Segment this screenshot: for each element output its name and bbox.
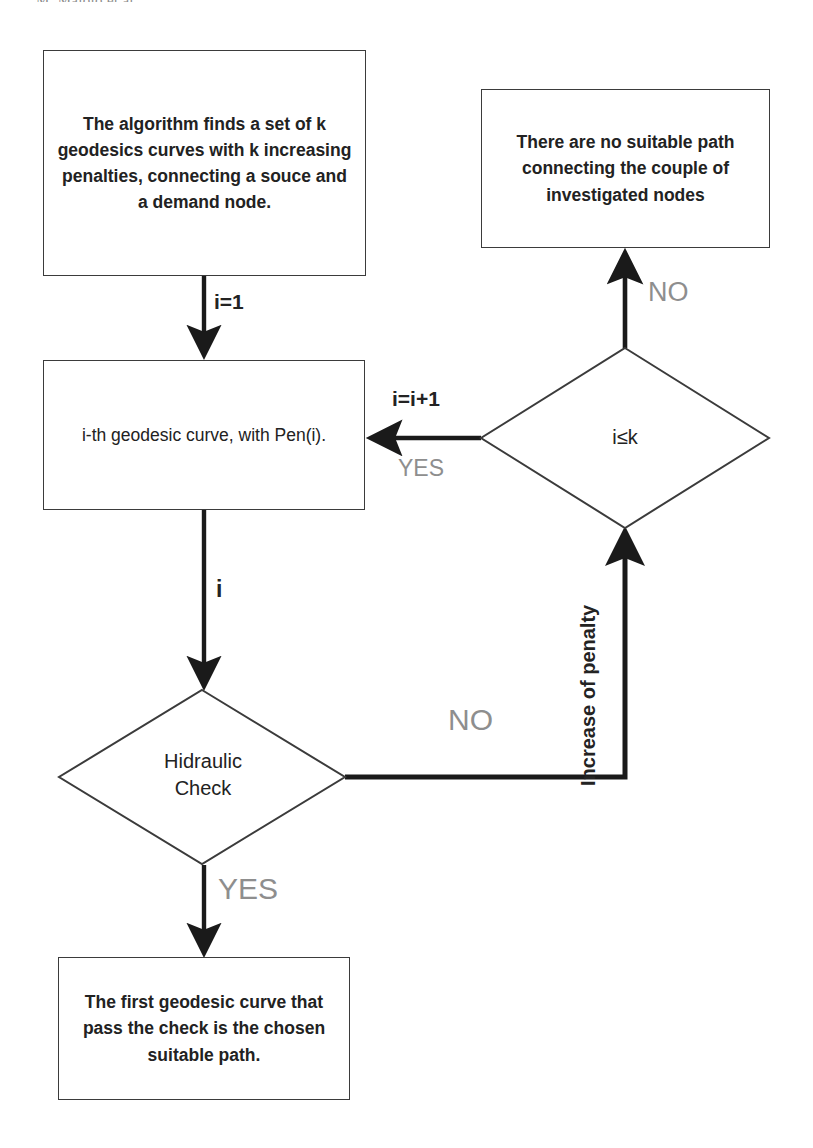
edge-label-current-index: i: [216, 576, 222, 603]
edge-label-counter-yes: YES: [398, 455, 444, 482]
ith-geodesic-text: i-th geodesic curve, with Pen(i).: [82, 422, 326, 448]
chosen-path-terminal-text: The first geodesic curve that pass the c…: [71, 989, 337, 1068]
edge-label-init-counter: i=1: [214, 290, 244, 314]
no-path-terminal-box[interactable]: There are no suitable path connecting th…: [481, 89, 770, 248]
hidraulic-check-diamond[interactable]: [59, 690, 345, 864]
edge-label-increment-counter: i=i+1: [392, 387, 440, 411]
edge-label-check-no: NO: [448, 703, 493, 737]
chosen-path-terminal-box[interactable]: The first geodesic curve that pass the c…: [58, 957, 350, 1100]
edge-label-penalty-increase: Increase of penalty: [577, 605, 600, 786]
flowchart-page: M. Maiolo et al.: [0, 0, 813, 1148]
start-process-text: The algorithm finds a set of k geodesics…: [56, 111, 353, 216]
edge-label-check-yes: YES: [218, 872, 278, 906]
ith-geodesic-box[interactable]: i-th geodesic curve, with Pen(i).: [43, 360, 365, 510]
start-process-box[interactable]: The algorithm finds a set of k geodesics…: [43, 50, 366, 276]
no-path-terminal-text: There are no suitable path connecting th…: [494, 129, 757, 208]
edge-label-counter-no: NO: [648, 277, 689, 308]
counter-decision-diamond[interactable]: [481, 348, 769, 528]
